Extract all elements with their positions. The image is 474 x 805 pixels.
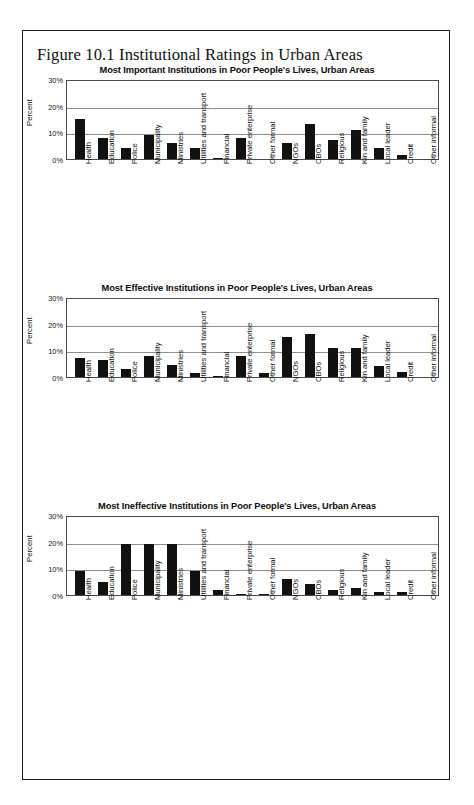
x-axis-tick-label: CBOs (314, 362, 323, 382)
x-axis-tick: Ministries (167, 600, 177, 712)
x-axis-tick-label: Local leader (383, 123, 392, 164)
x-axis-tick: Private enterprise (236, 600, 246, 712)
x-axis-tick: Other formal (259, 600, 269, 712)
x-axis-tick-label: Education (107, 566, 116, 600)
x-axis-tick-label: Kin and family (360, 334, 369, 382)
x-axis-tick: NGOs (282, 164, 292, 276)
x-axis-tick: Police (121, 600, 131, 712)
x-axis-tick: Credit (397, 600, 407, 712)
chart-title: Most Ineffective Institutions in Poor Pe… (23, 501, 451, 511)
x-axis-tick-label: Religious (337, 133, 346, 164)
x-axis-tick-label: NGOs (291, 361, 300, 382)
x-axis-tick: Financial (213, 600, 223, 712)
x-axis-tick: Other informal (420, 164, 430, 276)
x-axis-categories: HealthEducationPoliceMunicipalityMinistr… (66, 382, 439, 494)
x-axis-tick-label: Credit (406, 144, 415, 164)
x-axis-tick-label: Municipality (153, 560, 162, 600)
chart-title: Most Important Institutions in Poor Peop… (23, 65, 451, 75)
x-axis-tick-label: Police (130, 579, 139, 600)
x-axis-tick-label: Private enterprise (245, 541, 254, 600)
x-axis-tick-label: Kin and family (360, 116, 369, 164)
x-axis-tick: Police (121, 164, 131, 276)
x-axis-tick: Financial (213, 382, 223, 494)
x-axis-tick: Kin and family (351, 382, 361, 494)
y-axis-tick-label: 30% (48, 76, 63, 85)
x-axis-tick: Health (75, 600, 85, 712)
x-axis-tick: Private enterprise (236, 382, 246, 494)
x-axis-tick: Ministries (167, 382, 177, 494)
x-axis-tick: Utilities and transport (190, 600, 200, 712)
x-axis-tick: CBOs (305, 164, 315, 276)
x-axis-tick: Education (98, 382, 108, 494)
x-axis-tick-label: Financial (222, 570, 231, 600)
chart-title: Most Effective Institutions in Poor Peop… (23, 283, 451, 293)
x-axis-tick: Utilities and transport (190, 382, 200, 494)
x-axis-tick-label: Local leader (383, 559, 392, 600)
x-axis-tick-label: Municipality (153, 124, 162, 164)
x-axis-tick: Municipality (144, 600, 154, 712)
x-axis-tick-label: NGOs (291, 579, 300, 600)
y-axis-tick-label: 10% (48, 347, 63, 356)
x-axis-tick: NGOs (282, 382, 292, 494)
x-axis-tick: Religious (328, 164, 338, 276)
x-axis-tick-label: Ministries (176, 568, 185, 600)
x-axis-tick-label: Other formal (268, 122, 277, 164)
x-axis-tick-label: Police (130, 143, 139, 164)
x-axis-tick-label: Other informal (429, 334, 438, 382)
x-axis-tick-label: Religious (337, 351, 346, 382)
x-axis-tick: Health (75, 164, 85, 276)
x-axis-tick-label: Ministries (176, 132, 185, 164)
x-axis-tick-label: Credit (406, 580, 415, 600)
chart-panel: Most Ineffective Institutions in Poor Pe… (23, 501, 451, 719)
y-axis-tick-label: 30% (48, 294, 63, 303)
x-axis-tick-label: CBOs (314, 144, 323, 164)
x-axis-tick: Credit (397, 382, 407, 494)
x-axis-tick-label: Utilities and transport (199, 93, 208, 164)
y-axis-label: Percent (25, 535, 34, 562)
y-axis-tick-label: 20% (48, 320, 63, 329)
x-axis-tick: Local leader (374, 164, 384, 276)
x-axis-tick: Other formal (259, 164, 269, 276)
x-axis-tick: Municipality (144, 382, 154, 494)
y-axis-tick-label: 30% (48, 512, 63, 521)
y-axis-tick-label: 0% (52, 374, 63, 383)
x-axis-tick-label: Local leader (383, 341, 392, 382)
x-axis-tick-label: Credit (406, 362, 415, 382)
y-axis-tick-label: 0% (52, 156, 63, 165)
x-axis-tick-label: Other informal (429, 552, 438, 600)
x-axis-tick: Kin and family (351, 600, 361, 712)
y-axis-tick-label: 10% (48, 129, 63, 138)
x-axis-tick: Police (121, 382, 131, 494)
x-axis-tick: Education (98, 600, 108, 712)
x-axis-tick-label: Other informal (429, 116, 438, 164)
x-axis-tick-label: NGOs (291, 143, 300, 164)
y-axis-tick-label: 20% (48, 102, 63, 111)
x-axis-tick: Religious (328, 600, 338, 712)
x-axis-tick-label: Health (84, 360, 93, 382)
x-axis-tick-label: Health (84, 578, 93, 600)
x-axis-tick: Other informal (420, 600, 430, 712)
x-axis-tick: CBOs (305, 600, 315, 712)
x-axis-tick-label: Religious (337, 569, 346, 600)
x-axis-tick-label: Private enterprise (245, 323, 254, 382)
x-axis-tick-label: Utilities and transport (199, 529, 208, 600)
x-axis-tick-label: Financial (222, 134, 231, 164)
x-axis-tick: Health (75, 382, 85, 494)
x-axis-tick: Financial (213, 164, 223, 276)
x-axis-tick: Ministries (167, 164, 177, 276)
plot-wrapper: Percent30%20%10%0%HealthEducationPoliceM… (23, 516, 451, 716)
chart-panel: Most Important Institutions in Poor Peop… (23, 65, 451, 283)
x-axis-tick-label: Health (84, 142, 93, 164)
x-axis-categories: HealthEducationPoliceMunicipalityMinistr… (66, 600, 439, 712)
x-axis-tick-label: Ministries (176, 350, 185, 382)
x-axis-tick: Kin and family (351, 164, 361, 276)
x-axis-tick: CBOs (305, 382, 315, 494)
x-axis-tick-label: CBOs (314, 580, 323, 600)
x-axis-tick-label: Education (107, 348, 116, 382)
x-axis-tick: Education (98, 164, 108, 276)
x-axis-tick: Municipality (144, 164, 154, 276)
x-axis-tick: Utilities and transport (190, 164, 200, 276)
x-axis-tick: Private enterprise (236, 164, 246, 276)
y-axis-ticks: 30%20%10%0% (37, 298, 63, 378)
x-axis-tick-label: Financial (222, 352, 231, 382)
